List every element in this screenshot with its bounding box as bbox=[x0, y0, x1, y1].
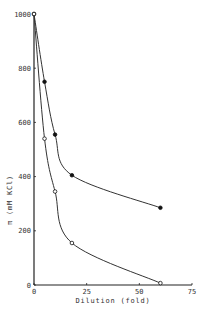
open-data-point bbox=[70, 241, 74, 245]
open-data-point bbox=[43, 137, 47, 141]
filled-data-point bbox=[43, 80, 47, 84]
filled-data-point bbox=[70, 173, 74, 177]
y-tick-label: 600 bbox=[18, 119, 31, 127]
x-axis-label: Dilution (fold) bbox=[75, 297, 150, 305]
x-tick-label: 50 bbox=[135, 288, 143, 296]
series-curve bbox=[34, 14, 160, 208]
y-tick-label: 200 bbox=[18, 227, 31, 235]
x-tick-label: 25 bbox=[82, 288, 90, 296]
y-tick-label: 1000 bbox=[14, 11, 31, 19]
filled-data-point bbox=[159, 206, 163, 210]
y-tick-label: 400 bbox=[18, 173, 31, 181]
open-data-point bbox=[53, 190, 57, 194]
filled-data-point bbox=[53, 133, 57, 137]
series-curve bbox=[34, 14, 160, 283]
open-data-point bbox=[159, 281, 163, 285]
y-tick-label: 800 bbox=[18, 65, 31, 73]
y-tick-label: 0 bbox=[27, 282, 31, 290]
y-axis-label: π (mM KCl) bbox=[6, 175, 14, 225]
x-tick-label: 0 bbox=[32, 288, 36, 296]
chart: 025507502004006008001000Dilution (fold)π… bbox=[0, 0, 204, 316]
x-tick-label: 75 bbox=[188, 288, 196, 296]
open-data-point bbox=[32, 12, 36, 16]
